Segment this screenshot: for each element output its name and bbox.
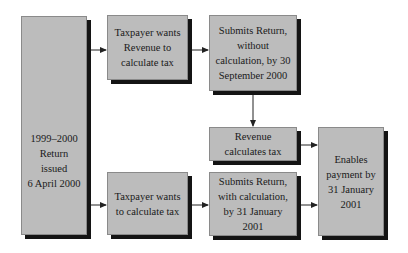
node-text: calculation, by 30 [216,53,291,68]
node-text: Return [27,146,80,161]
node-text: Submits Return, [216,23,291,38]
node-text: by 31 January [218,204,288,219]
node-return-issued: 1999–2000 Return issued 6 April 2000 [21,16,87,235]
node-text: September 2000 [216,68,291,83]
node-text: issued [27,161,80,176]
node-text: Revenue [225,129,282,144]
node-text: 31 January [326,182,375,197]
node-text: 2001 [326,197,375,212]
node-text: payment by [326,167,375,182]
node-text: 6 April 2000 [27,176,80,191]
node-text: without [216,38,291,53]
node-wants-self-calc: Taxpayer wants to calculate tax [107,172,188,235]
node-text: 1999–2000 [27,131,80,146]
node-text: Submits Return, [218,174,288,189]
node-text: with calculation, [218,189,288,204]
node-revenue-calculates: Revenue calculates tax [209,127,297,161]
node-submits-with-calc: Submits Return, with calculation, by 31 … [209,172,297,236]
node-text: Taxpayer wants [114,25,180,40]
node-text: calculate tax [114,55,180,70]
node-text: to calculate tax [114,204,180,219]
node-submits-without-calc: Submits Return, without calculation, by … [209,15,297,91]
node-text: Taxpayer wants [114,189,180,204]
node-text: calculates tax [225,144,282,159]
node-text: 2001 [218,219,288,234]
node-wants-revenue-calc: Taxpayer wants Revenue to calculate tax [107,15,188,80]
node-enables-payment: Enables payment by 31 January 2001 [318,127,384,236]
node-text: Enables [326,152,375,167]
node-text: Revenue to [114,40,180,55]
